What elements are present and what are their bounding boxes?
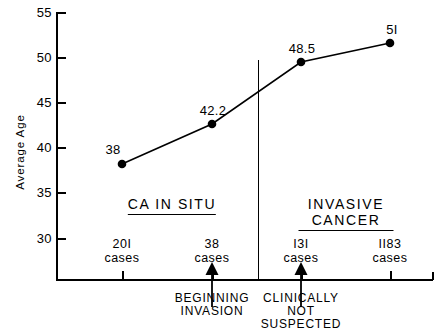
data-point-label-2: 42.2: [200, 103, 227, 118]
series-line: [122, 43, 390, 164]
case-group-4: II83 cases: [372, 238, 407, 265]
annotation-clinically-not-suspected: CLINICALLY NOT SUSPECTED: [261, 292, 342, 328]
data-point-3: [297, 58, 306, 67]
annotation-beginning-invasion: BEGINNING INVASION: [175, 292, 250, 318]
case-group-1: 20I cases: [104, 238, 139, 265]
data-point-label-4: 5I: [386, 22, 397, 37]
data-point-2: [208, 120, 217, 129]
case-group-3: I3I cases: [283, 238, 318, 265]
case-group-2: 38 cases: [194, 238, 229, 265]
annotation-2-line-3: SUSPECTED: [261, 318, 342, 328]
case-count-4: II83: [372, 238, 407, 252]
case-unit-1: cases: [104, 252, 139, 266]
case-count-2: 38: [194, 238, 229, 252]
data-point-1: [118, 160, 127, 169]
data-point-label-3: 48.5: [289, 41, 316, 56]
annotation-1-line-2: INVASION: [175, 305, 250, 318]
chart-figure: 55 50 45 40 35 30 Average Age 38 42.2 48…: [0, 0, 441, 328]
data-point-4: [386, 39, 395, 48]
section-heading-invasive-cancer: INVASIVE CANCER: [299, 196, 394, 231]
data-point-label-1: 38: [105, 142, 120, 157]
series-plot: [0, 0, 441, 328]
section-heading-ca-in-situ: CA IN SITU: [128, 196, 216, 215]
case-count-1: 20I: [104, 238, 139, 252]
case-count-3: I3I: [283, 238, 318, 252]
case-unit-4: cases: [372, 252, 407, 266]
